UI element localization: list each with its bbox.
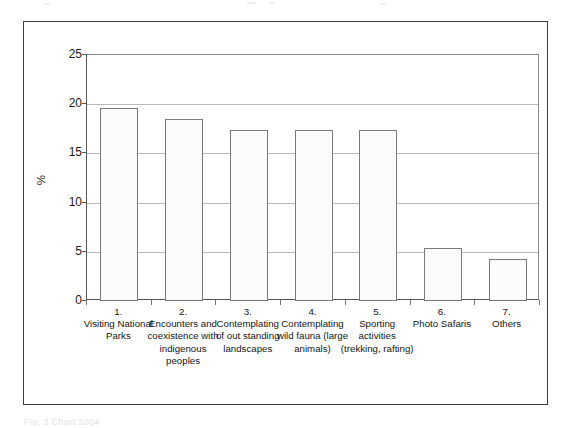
bar (424, 248, 462, 301)
category-number: 4. (276, 306, 349, 318)
y-axis-tick-label: 10 (48, 196, 82, 208)
x-axis-tick-mark (280, 300, 281, 305)
category-number: 3. (211, 306, 284, 318)
x-axis-category-label: 2.Encounters and coexistence with indige… (147, 306, 220, 367)
bar (230, 130, 268, 301)
x-axis-tick-mark (539, 300, 540, 305)
y-axis-tick-label: 20 (48, 97, 82, 109)
x-axis-tick-mark (345, 300, 346, 305)
y-axis-tick-label: 15 (48, 146, 82, 158)
x-axis-category-label: 6.Photo Safaris (406, 306, 479, 330)
x-axis-tick-mark (410, 300, 411, 305)
scan-artifact (269, 2, 275, 4)
category-name: Others (492, 318, 521, 329)
bar (165, 119, 203, 301)
category-number: 7. (470, 306, 543, 318)
x-axis-category-label: 4.Contemplating wild fauna (large animal… (276, 306, 349, 355)
x-axis-category-label: 3.Contemplating of out standing landscap… (211, 306, 284, 355)
y-axis-tick-label: 25 (48, 48, 82, 60)
bar-chart: % 0510152025 1.Visiting National Parks2.… (24, 22, 549, 406)
x-axis-category-label: 5.Sporting activities (trekking, rafting… (341, 306, 414, 355)
category-name: Encounters and coexistence with indigeno… (148, 318, 219, 366)
scan-artifact (44, 3, 51, 5)
category-number: 1. (82, 306, 155, 318)
y-axis-tick-label: 0 (48, 294, 82, 306)
gridline (87, 104, 538, 105)
x-axis-tick-mark (474, 300, 475, 305)
category-number: 6. (406, 306, 479, 318)
x-axis-category-label: 1.Visiting National Parks (82, 306, 155, 343)
figure-frame: % 0510152025 1.Visiting National Parks2.… (23, 21, 548, 405)
bar (295, 130, 333, 301)
plot-area (86, 54, 539, 300)
figure-caption-ghost: Fig. 3 Chart 2004 (24, 417, 100, 426)
x-axis-category-label: 7.Others (470, 306, 543, 330)
y-axis-tick-label: 5 (48, 245, 82, 257)
category-name: Contemplating wild fauna (large animals) (277, 318, 348, 353)
category-name: Sporting activities (trekking, rafting) (341, 318, 414, 353)
category-name: Contemplating of out standing landscapes (216, 318, 280, 353)
scan-artifact (247, 2, 256, 4)
y-axis-ticks: 0510152025 (42, 54, 82, 300)
category-number: 2. (147, 306, 220, 318)
bar (100, 108, 138, 301)
bar (489, 259, 527, 301)
bar (359, 130, 397, 301)
x-axis-tick-mark (86, 300, 87, 305)
category-number: 5. (341, 306, 414, 318)
x-axis-tick-mark (151, 300, 152, 305)
category-name: Photo Safaris (413, 318, 471, 329)
category-name: Visiting National Parks (84, 318, 153, 341)
scan-artifact (380, 3, 387, 5)
x-axis-tick-mark (215, 300, 216, 305)
